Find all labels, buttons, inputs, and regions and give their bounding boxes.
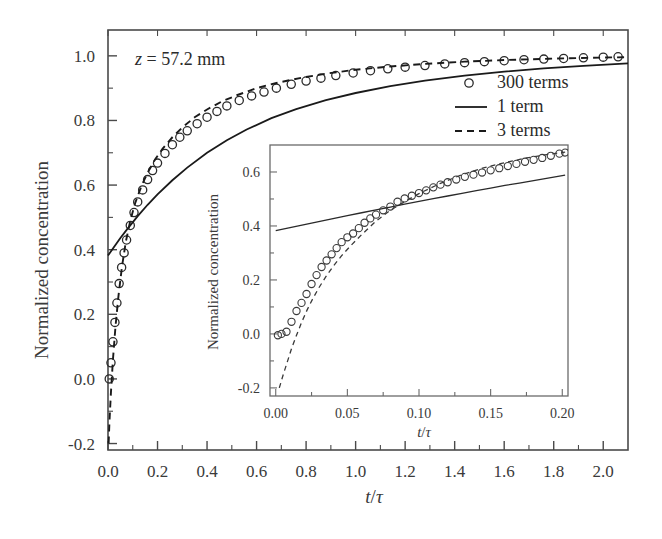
inset-axes	[270, 145, 569, 396]
figure-container: z = 57.2 mm t/τ Normalized concentration…	[0, 0, 662, 539]
concentration-chart	[0, 0, 662, 539]
chart-legend	[455, 79, 487, 131]
